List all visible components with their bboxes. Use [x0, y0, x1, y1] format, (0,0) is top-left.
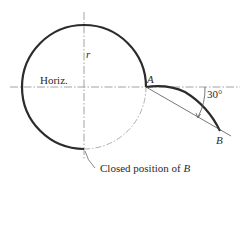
- closed-position-leader: [85, 151, 95, 168]
- closed-position-var: B: [183, 162, 190, 174]
- radius-label: r: [86, 49, 90, 60]
- point-A-label: A: [147, 74, 154, 85]
- point-B-label: B: [216, 135, 223, 146]
- closed-position-text: Closed position of: [100, 162, 183, 174]
- gate-arc-dashed: [84, 87, 146, 149]
- angle-label: 30°: [207, 89, 222, 100]
- horiz-label: Horiz.: [40, 75, 68, 86]
- closed-position-label: Closed position of B: [100, 163, 190, 174]
